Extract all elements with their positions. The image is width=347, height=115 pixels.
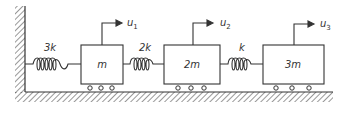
wheels-3m xyxy=(274,86,311,90)
wheels-2m xyxy=(176,86,206,90)
spring-k xyxy=(220,58,263,70)
wheels-m xyxy=(88,86,114,90)
displacement-label-u2: u2 xyxy=(220,17,231,31)
ground xyxy=(15,92,333,102)
spring-label-3k: 3k xyxy=(44,42,57,53)
displacement-label-u3: u3 xyxy=(320,18,331,32)
mass-label-3m: 3m xyxy=(285,59,301,70)
displacement-label-u1: u1 xyxy=(127,17,138,31)
spring-label-k: k xyxy=(239,42,246,53)
displacement-arrow-u2 xyxy=(193,20,213,45)
mass-label-2m: 2m xyxy=(184,59,200,70)
fixed-wall xyxy=(15,6,25,93)
displacement-arrow-u3 xyxy=(294,21,314,45)
mass-label-m: m xyxy=(97,59,107,70)
displacement-arrow-u1 xyxy=(102,20,122,45)
spring-label-2k: 2k xyxy=(139,42,152,53)
spring-3k xyxy=(25,58,81,70)
spring-2k xyxy=(123,58,164,70)
